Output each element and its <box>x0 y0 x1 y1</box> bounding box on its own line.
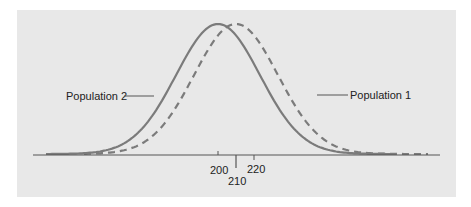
tick-label-220: 220 <box>247 163 265 175</box>
population-2-label: Population 2 <box>66 90 127 102</box>
chart-background <box>17 10 456 197</box>
population-1-label: Population 1 <box>350 89 411 101</box>
distribution-chart: 200 210 220 Population 2 Population 1 <box>0 0 471 207</box>
tick-label-210: 210 <box>228 175 246 187</box>
tick-label-200: 200 <box>210 164 228 176</box>
